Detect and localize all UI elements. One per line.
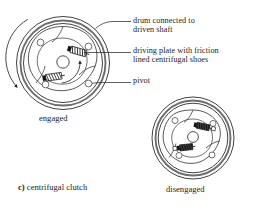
shoe-gap-top-disengaged bbox=[184, 110, 193, 122]
view-caption-disengaged: disengaged bbox=[166, 184, 205, 194]
engaged-clutch-view bbox=[6, 17, 110, 110]
figure-caption-text: centrifugal clutch bbox=[25, 182, 88, 192]
leader-line-pivot bbox=[92, 83, 131, 84]
central-shaft-hole-disengaged bbox=[188, 132, 199, 143]
centrifugal-clutch-figure: drum connected to driven shaft driving p… bbox=[0, 0, 256, 210]
shoe-gap-top bbox=[52, 27, 63, 42]
figure-caption: c) centrifugal clutch bbox=[18, 182, 87, 192]
pivot-upper-left-disengaged bbox=[172, 118, 178, 124]
callout-plate-line-2: lined centrifugal shoes bbox=[133, 55, 219, 65]
leader-line-drum bbox=[96, 22, 132, 29]
pivot-upper-right-disengaged bbox=[210, 121, 216, 127]
pivot-lower-right bbox=[85, 80, 92, 87]
callout-drum-connected-to-driven-shaft: drum connected to driven shaft bbox=[133, 16, 195, 35]
callout-drum-line-2: driven shaft bbox=[133, 25, 195, 35]
callout-plate-line-1: driving plate with friction bbox=[133, 46, 219, 56]
callout-pivot-line-1: pivot bbox=[133, 76, 150, 86]
clutch-diagram-svg bbox=[0, 0, 256, 210]
callout-pivot: pivot bbox=[133, 76, 150, 86]
pivot-lower-left-disengaged bbox=[176, 153, 182, 159]
pivot-upper-right bbox=[85, 43, 92, 50]
central-shaft-hole bbox=[57, 56, 69, 68]
disengaged-clutch-view bbox=[152, 97, 234, 179]
return-spring-lower bbox=[42, 72, 65, 82]
drum-rotation-arrow bbox=[6, 20, 28, 87]
callout-driving-plate-with-friction-lined-centrifugal-shoes: driving plate with friction lined centri… bbox=[133, 46, 219, 65]
figure-caption-key: c) bbox=[18, 182, 25, 192]
pivot-lower-right-disengaged bbox=[209, 152, 215, 158]
callout-drum-line-1: drum connected to bbox=[133, 16, 195, 26]
pivot-lower-left bbox=[42, 81, 49, 88]
view-caption-engaged: engaged bbox=[39, 113, 68, 123]
pivot-upper-left bbox=[37, 39, 44, 46]
